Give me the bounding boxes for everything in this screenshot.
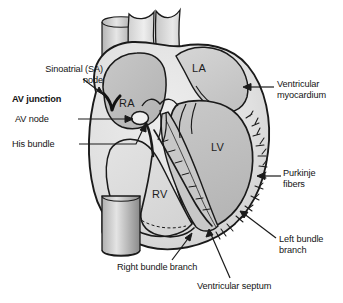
chamber-label-ra: RA	[119, 97, 135, 109]
label-ventricular-septum: Ventricular septum	[197, 281, 313, 292]
label-av-node: AV node	[15, 114, 79, 125]
label-left-bundle-branch: Left bundle branch	[279, 234, 343, 255]
chamber-label-rv: RV	[152, 188, 168, 200]
ivc-icon	[102, 196, 140, 256]
label-right-bundle-branch: Right bundle branch	[117, 262, 235, 273]
heart-conduction-diagram: LA RA LV RV Sinoatrial (SA) node AV junc…	[0, 0, 343, 303]
chamber-label-la: LA	[192, 62, 206, 74]
label-av-junction: AV junction	[12, 94, 105, 105]
chamber-label-lv: LV	[211, 141, 224, 153]
label-sa-node: Sinoatrial (SA) node	[10, 64, 103, 85]
label-his-bundle: His bundle	[12, 139, 82, 150]
heart-illustration	[0, 0, 343, 303]
label-purkinje-fibers: Purkinje fibers	[283, 168, 343, 189]
label-ventricular-myocardium: Ventricular myocardium	[277, 79, 343, 100]
